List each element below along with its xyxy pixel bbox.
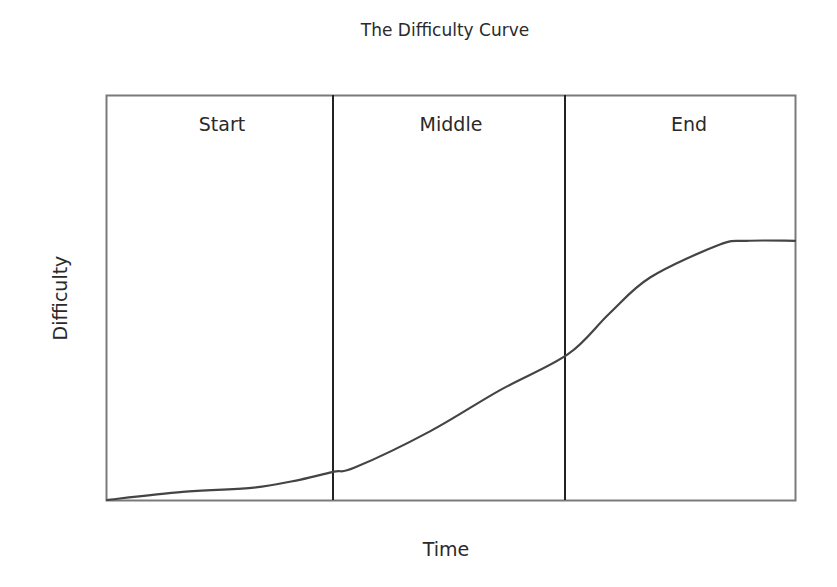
x-axis-label: Time — [423, 538, 470, 560]
section-label-start: Start — [199, 113, 245, 135]
section-label-middle: Middle — [420, 113, 483, 135]
plot-frame — [107, 96, 796, 501]
difficulty-curve — [107, 240, 795, 500]
section-label-end: End — [671, 113, 707, 135]
difficulty-chart — [0, 0, 837, 587]
y-axis-label: Difficulty — [49, 256, 71, 341]
